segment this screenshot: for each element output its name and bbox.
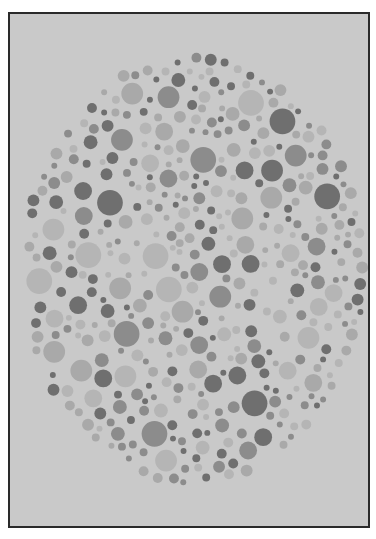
dot (203, 180, 209, 186)
dot (153, 231, 159, 237)
dot (27, 208, 37, 218)
dot (218, 89, 224, 95)
dot (314, 403, 320, 409)
dot (181, 465, 189, 473)
dot (133, 203, 141, 211)
dot (88, 274, 98, 284)
dot (143, 66, 153, 76)
dot (191, 183, 197, 189)
dot (292, 131, 300, 139)
dot (250, 289, 258, 297)
dot (127, 416, 135, 424)
dot (277, 422, 283, 428)
dot (114, 321, 140, 347)
dot (276, 144, 282, 150)
dot (160, 170, 178, 188)
dot (274, 243, 280, 249)
dot (334, 220, 344, 230)
dot (75, 320, 85, 330)
dot (211, 185, 223, 197)
dot (335, 359, 343, 367)
dot (82, 419, 94, 431)
dot (61, 208, 67, 214)
dot (182, 195, 188, 201)
dot (342, 321, 348, 327)
dot (146, 383, 152, 389)
dot (131, 71, 139, 79)
dot (228, 401, 240, 413)
dot (118, 443, 126, 451)
dot (61, 171, 73, 183)
dot (100, 297, 106, 303)
dot (180, 271, 188, 279)
dot (303, 131, 315, 143)
dot (209, 286, 231, 308)
dot (143, 243, 169, 269)
dot (228, 355, 234, 361)
dot (321, 139, 331, 149)
dot (97, 426, 103, 432)
dot (227, 189, 235, 197)
dot (314, 184, 340, 210)
dot (190, 250, 200, 260)
dot (254, 428, 272, 446)
dot (28, 194, 40, 206)
dot (249, 147, 261, 159)
dot (101, 168, 113, 180)
dot (119, 215, 133, 229)
dot (171, 73, 185, 87)
dot (309, 393, 315, 399)
dot (146, 182, 156, 192)
dot (199, 300, 205, 306)
dot (337, 258, 345, 266)
dot (238, 90, 264, 116)
dot (219, 157, 225, 163)
dot (327, 372, 333, 378)
dot (196, 441, 210, 455)
dot (140, 108, 148, 116)
dot (167, 231, 177, 241)
dot (179, 171, 189, 181)
dot (259, 79, 265, 85)
dot (176, 239, 184, 247)
dot (198, 74, 204, 80)
dot (190, 336, 208, 354)
dot (204, 430, 210, 436)
dot (111, 109, 119, 117)
dot (178, 207, 190, 219)
dot (316, 216, 322, 222)
dot (273, 388, 279, 394)
dot (239, 442, 257, 460)
dot (175, 222, 185, 232)
dot (75, 242, 101, 268)
dot (174, 111, 186, 123)
dot (69, 154, 79, 164)
dot (309, 318, 317, 326)
dot (131, 349, 143, 361)
dot (256, 116, 262, 122)
dot (218, 116, 224, 122)
dot (43, 246, 57, 260)
dot (242, 390, 268, 416)
dot (119, 253, 131, 265)
dot (26, 268, 52, 294)
dot (234, 65, 242, 73)
dot (203, 129, 209, 135)
dot (291, 268, 299, 276)
dot (311, 262, 321, 272)
dot (273, 360, 279, 366)
dot (140, 448, 148, 456)
dot (108, 443, 114, 449)
dot (173, 395, 181, 403)
dot (115, 238, 121, 244)
dot (192, 428, 202, 438)
dot (84, 389, 102, 407)
dot (324, 323, 332, 331)
dot (274, 224, 284, 234)
dot (164, 145, 174, 155)
dot (107, 152, 119, 164)
dot (134, 240, 140, 246)
dot (79, 229, 89, 239)
dot (276, 260, 284, 268)
dot (207, 207, 215, 215)
